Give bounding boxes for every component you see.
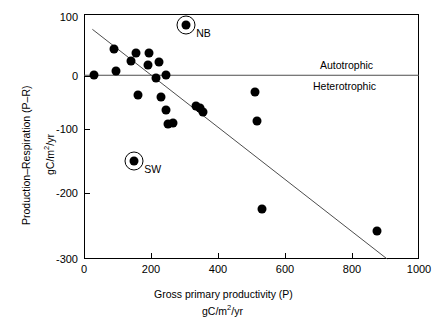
data-point bbox=[168, 119, 177, 128]
data-point bbox=[131, 49, 140, 58]
y-axis-title: Production–Respiration (P–R) bbox=[21, 86, 32, 225]
scatter-plot-figure: 100 0 -100 -200 -300 0 200 400 600 800 1… bbox=[0, 0, 444, 329]
data-point bbox=[198, 108, 207, 117]
x-tick-label-0: 0 bbox=[81, 264, 87, 275]
point-label-sw: SW bbox=[144, 164, 161, 175]
x-tick-label-1000: 1000 bbox=[407, 264, 431, 275]
y-axis-units-exponent: 2 bbox=[42, 146, 51, 150]
y-axis-units-prefix: gC/m bbox=[44, 150, 56, 175]
heterotrophic-label: Heterotrophic bbox=[313, 81, 376, 92]
data-point bbox=[162, 106, 171, 115]
y-tickmark-m200 bbox=[84, 193, 90, 194]
autotrophic-label: Autotrophic bbox=[320, 60, 373, 71]
y-tick-label-m300: -300 bbox=[56, 254, 78, 265]
data-point bbox=[110, 44, 119, 53]
data-point bbox=[90, 71, 99, 80]
y-tick-label-100: 100 bbox=[60, 12, 78, 23]
x-tickmark-400 bbox=[218, 253, 219, 259]
data-point bbox=[133, 91, 142, 100]
x-tickmark-800 bbox=[352, 253, 353, 259]
x-tickmark-200 bbox=[151, 253, 152, 259]
x-axis-units-suffix: /yr bbox=[231, 305, 243, 317]
x-tick-label-400: 400 bbox=[209, 264, 227, 275]
data-point bbox=[162, 70, 171, 79]
data-point bbox=[155, 57, 164, 66]
data-point bbox=[111, 66, 120, 75]
data-point bbox=[126, 57, 135, 66]
y-tick-label-0: 0 bbox=[72, 71, 78, 82]
data-point bbox=[152, 74, 161, 83]
data-point bbox=[252, 117, 261, 126]
point-label-nb: NB bbox=[196, 28, 211, 39]
x-axis-units-prefix: gC/m bbox=[202, 305, 227, 317]
x-tick-label-200: 200 bbox=[142, 264, 160, 275]
data-point bbox=[373, 227, 382, 236]
x-tick-label-800: 800 bbox=[343, 264, 361, 275]
data-point bbox=[257, 204, 266, 213]
data-point-nb bbox=[182, 21, 191, 30]
data-point bbox=[157, 92, 166, 101]
y-axis-units-suffix: /yr bbox=[44, 134, 56, 146]
y-tick-label-m200: -200 bbox=[56, 188, 78, 199]
x-axis-units: gC/m2/yr bbox=[202, 303, 243, 318]
y-axis-ticks: 100 0 -100 -200 -300 bbox=[0, 0, 78, 329]
data-point-sw bbox=[130, 157, 139, 166]
data-point bbox=[250, 87, 259, 96]
x-tick-label-600: 600 bbox=[276, 264, 294, 275]
x-axis-title: Gross primary productivity (P) bbox=[154, 288, 293, 301]
x-tickmark-600 bbox=[285, 253, 286, 259]
y-tickmark-m100 bbox=[84, 129, 90, 130]
y-axis-units: gC/m2/yr bbox=[43, 134, 55, 175]
data-point bbox=[143, 60, 152, 69]
y-tick-label-m100: -100 bbox=[56, 124, 78, 135]
data-point bbox=[145, 49, 154, 58]
